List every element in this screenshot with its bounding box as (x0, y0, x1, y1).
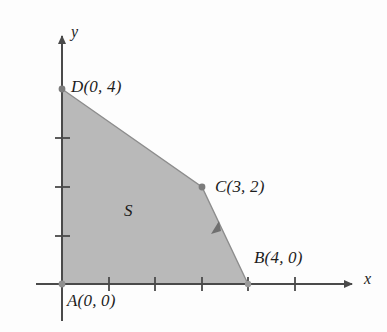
point-label-A: A(0, 0) (67, 291, 116, 311)
vertex-dot-D (59, 86, 66, 93)
vertex-dot-C (199, 184, 206, 191)
point-label-C: C(3, 2) (215, 177, 265, 197)
point-label-B: B(4, 0) (254, 248, 303, 268)
region-label-S: S (124, 201, 133, 221)
coordinate-plane-figure: D(0, 4) C(3, 2) B(4, 0) A(0, 0) S x y (0, 0, 387, 332)
point-label-D: D(0, 4) (71, 77, 122, 97)
y-axis-label: y (71, 23, 78, 41)
plot-canvas (0, 0, 387, 332)
vertex-dot-A (59, 281, 66, 288)
vertex-dot-B (245, 281, 251, 287)
x-axis-label: x (364, 270, 371, 288)
